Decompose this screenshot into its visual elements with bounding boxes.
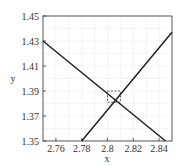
x-tick-label: 2.78 <box>73 143 91 154</box>
x-tick-label: 2.84 <box>150 143 168 154</box>
series-line <box>82 32 172 141</box>
chart: 2.762.782.82.822.841.351.371.391.411.431… <box>0 0 177 166</box>
y-tick-label: 1.45 <box>22 11 40 22</box>
y-axis-label: y <box>11 73 16 84</box>
x-axis-label: x <box>105 153 110 164</box>
y-tick-label: 1.41 <box>22 61 40 72</box>
x-tick-label: 2.76 <box>47 143 65 154</box>
x-tick-label: 2.82 <box>125 143 143 154</box>
y-tick-label: 1.37 <box>22 111 40 122</box>
y-tick-label: 1.35 <box>22 136 40 147</box>
y-tick-label: 1.43 <box>22 36 40 47</box>
y-tick-label: 1.39 <box>22 86 40 97</box>
grid-lines <box>43 16 172 141</box>
